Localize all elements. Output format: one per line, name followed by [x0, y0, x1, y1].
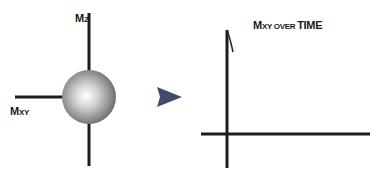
- left-panel: MZ MXY: [10, 12, 182, 166]
- arrow-head-icon: [157, 87, 182, 107]
- mxy-label: MXY: [10, 105, 30, 117]
- mri-magnetization-diagram: MZ MXY MXY OVER TIME: [0, 0, 382, 179]
- graph-title: MXY OVER TIME: [253, 19, 322, 31]
- magnetization-sphere: [62, 70, 116, 124]
- right-panel: MXY OVER TIME: [201, 19, 370, 168]
- magnetization-arrow: [115, 87, 182, 107]
- mz-label: MZ: [75, 12, 89, 24]
